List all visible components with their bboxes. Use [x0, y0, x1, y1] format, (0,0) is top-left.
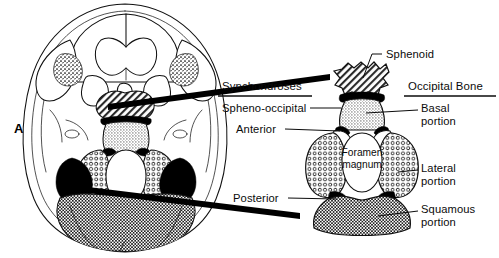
label-spheno-occipital: Spheno-occipital	[222, 102, 306, 114]
foramen-magnum-label-line1: Foramen	[342, 147, 383, 158]
label-lateral-portion-line1: Lateral	[421, 162, 456, 174]
inset-squamous-portion	[314, 196, 411, 235]
cranial-side-left	[41, 100, 46, 172]
label-anterior: Anterior	[236, 123, 276, 135]
skull-base-drawing	[23, 4, 227, 254]
inset-lateral-portion-right	[377, 133, 418, 197]
temporal-contour-left	[50, 110, 62, 142]
heading-synchondroses: Synchondroses	[222, 80, 302, 92]
label-posterior: Posterior	[233, 192, 279, 204]
inset-basal-portion	[340, 99, 385, 130]
foramen-magnum-label-line2: magnum	[342, 159, 382, 170]
panel-letter-a: A	[14, 121, 24, 136]
occipital-bone-inset: Foramen magnum	[306, 62, 419, 236]
skull-basal-portion	[103, 122, 149, 152]
label-sphenoid: Sphenoid	[386, 48, 434, 60]
label-basal-portion-line1: Basal	[421, 102, 450, 114]
label-squamous-portion-line1: Squamous	[421, 203, 476, 215]
heading-occipital-bone: Occipital Bone	[408, 80, 483, 92]
anatomical-figure: A	[0, 0, 499, 258]
maxilla-region	[70, 14, 180, 82]
label-lateral-portion-line2: portion	[421, 175, 456, 187]
foramen-ovale-left	[65, 130, 79, 138]
temporal-contour-right	[190, 110, 202, 142]
inset-sphenoid	[334, 62, 389, 95]
figure-root: A	[0, 0, 499, 258]
cranial-side-right	[206, 100, 211, 172]
foramen-ovale-right	[173, 130, 187, 138]
leader-anterior	[285, 129, 340, 131]
label-basal-portion-line2: portion	[421, 115, 456, 127]
inset-lateral-portion-left	[306, 133, 347, 197]
label-squamous-portion-line2: portion	[421, 216, 456, 228]
